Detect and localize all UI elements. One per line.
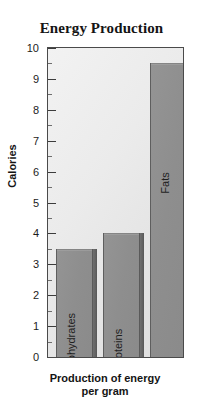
y-axis-tick-label: 8 xyxy=(15,105,39,116)
bar-label: Proteins xyxy=(112,329,124,358)
y-axis-major-tick xyxy=(48,233,56,234)
bar-top-highlight xyxy=(57,249,97,251)
y-axis-tick-label: 9 xyxy=(15,74,39,85)
bar-fats[interactable]: Fats xyxy=(150,63,184,357)
y-axis-tick-label: 10 xyxy=(15,43,39,54)
y-axis-tick-label: 0 xyxy=(15,352,39,363)
y-axis-minor-tick xyxy=(48,249,52,250)
y-axis-tick-label: 6 xyxy=(15,167,39,178)
y-axis-minor-tick xyxy=(48,311,52,312)
y-axis-minor-tick xyxy=(48,125,52,126)
y-axis-major-tick xyxy=(48,264,56,265)
y-axis-tick-label: 7 xyxy=(15,136,39,147)
plot-inner: CarbohydratesProteinsFats xyxy=(48,48,183,357)
y-axis-tick-label: 2 xyxy=(15,290,39,301)
y-axis-major-tick xyxy=(48,203,56,204)
y-axis-major-tick xyxy=(48,48,56,49)
bar-carbohydrates[interactable]: Carbohydrates xyxy=(56,249,97,357)
bar-proteins[interactable]: Proteins xyxy=(103,233,144,357)
bar-top-highlight xyxy=(151,63,184,65)
y-axis-tick-label: 5 xyxy=(15,198,39,209)
y-axis-tick-label: 3 xyxy=(15,259,39,270)
y-axis-major-tick xyxy=(48,141,56,142)
page-title: Energy Production xyxy=(0,20,203,37)
x-axis-title-line-2: per gram xyxy=(20,385,190,398)
y-axis-tick-label: 4 xyxy=(15,228,39,239)
y-axis-minor-tick xyxy=(48,342,52,343)
y-axis-minor-tick xyxy=(48,156,52,157)
y-axis-major-tick xyxy=(48,79,56,80)
y-axis-major-tick xyxy=(48,295,56,296)
bar-top-highlight xyxy=(104,233,144,235)
bar-3d-side xyxy=(92,249,97,357)
plot-area: CarbohydratesProteinsFats xyxy=(47,47,184,358)
y-axis-minor-tick xyxy=(48,187,52,188)
y-axis-major-tick xyxy=(48,172,56,173)
x-axis-title: Production of energy per gram xyxy=(20,372,190,398)
y-axis-minor-tick xyxy=(48,63,52,64)
y-axis-minor-tick xyxy=(48,218,52,219)
bar-3d-side xyxy=(139,233,144,357)
x-axis-title-line-1: Production of energy xyxy=(20,372,190,385)
y-axis-tick-label: 1 xyxy=(15,321,39,332)
y-axis-major-tick xyxy=(48,110,56,111)
y-axis-major-tick xyxy=(48,326,56,327)
y-axis-minor-tick xyxy=(48,280,52,281)
bar-label: Carbohydrates xyxy=(65,313,77,358)
y-axis-minor-tick xyxy=(48,94,52,95)
bar-label: Fats xyxy=(159,172,171,193)
